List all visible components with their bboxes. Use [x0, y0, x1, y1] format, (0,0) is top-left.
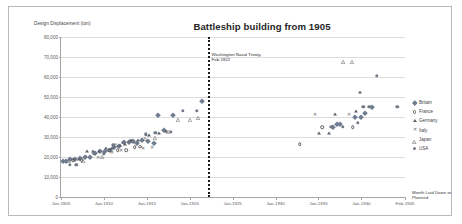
y-tick-mark	[59, 117, 61, 118]
x-tick-mark	[318, 197, 319, 200]
data-point-britain	[88, 154, 93, 159]
data-point-germany	[333, 112, 337, 115]
data-point-germany	[157, 131, 161, 134]
data-point-japan	[114, 133, 118, 151]
x-tick-mark	[190, 197, 191, 200]
x-tick-mark	[104, 197, 105, 200]
data-point-france	[320, 125, 324, 129]
y-tick-label: 30,000	[44, 135, 58, 140]
open-circle-icon	[411, 108, 418, 115]
x-tick-label: Jan-1905	[52, 201, 70, 206]
gridline	[61, 157, 405, 158]
y-tick-mark	[59, 57, 61, 58]
legend-item-italy[interactable]: ✕Italy	[411, 126, 457, 135]
y-tick-label: 10,000	[44, 175, 58, 180]
legend-item-france[interactable]: France	[411, 107, 457, 116]
data-point-germany	[358, 90, 362, 93]
y-tick-mark	[59, 37, 61, 38]
data-point-usa	[181, 109, 184, 112]
gridline	[61, 97, 405, 98]
x-tick-mark	[361, 197, 362, 200]
y-tick-label: 80,000	[44, 35, 58, 40]
data-point-britain	[199, 98, 204, 103]
data-point-germany	[118, 144, 122, 147]
data-point-italy: ✕	[110, 151, 114, 155]
y-tick-mark	[59, 77, 61, 78]
data-point-germany	[104, 146, 108, 149]
data-point-britain	[362, 110, 367, 115]
data-point-germany	[136, 138, 140, 141]
data-point-france	[124, 148, 128, 152]
data-point-japan	[188, 108, 192, 126]
y-tick-label: 70,000	[44, 55, 58, 60]
data-point-italy: ✕	[313, 113, 317, 117]
legend-item-germany[interactable]: Germany	[411, 116, 457, 125]
data-point-germany	[72, 158, 76, 161]
open-triangle-icon	[411, 136, 418, 143]
data-point-italy: ✕	[141, 147, 145, 151]
data-point-japan	[341, 50, 345, 68]
x-tick-label: Jan-1925	[224, 201, 242, 206]
x-tick-mark	[233, 197, 234, 200]
treaty-label-line2: Feb 1922	[212, 57, 262, 62]
legend: BritainFranceGermany✕ItalyJapanUSA	[411, 98, 457, 153]
gridline	[61, 177, 405, 178]
x-tick-label: Jan-1930	[266, 201, 284, 206]
x-tick-mark	[147, 197, 148, 200]
y-tick-mark	[59, 177, 61, 178]
legend-item-britain[interactable]: Britain	[411, 98, 457, 107]
data-point-usa	[396, 105, 399, 108]
chart-screenshot: Design Displacement (ton) Battleship bui…	[0, 0, 462, 224]
legend-item-label: Japan	[419, 137, 431, 142]
y-tick-label: 40,000	[44, 115, 58, 120]
x-tick-label: Jan-1940	[352, 201, 370, 206]
legend-item-label: USA	[419, 146, 428, 151]
data-point-italy: ✕	[347, 113, 351, 117]
washington-treaty-line	[208, 37, 210, 197]
y-tick-label: 60,000	[44, 75, 58, 80]
legend-item-usa[interactable]: USA	[411, 144, 457, 153]
data-point-japan	[143, 127, 147, 145]
data-point-britain	[352, 114, 357, 119]
data-point-usa	[75, 163, 78, 166]
data-point-france	[133, 145, 137, 149]
data-point-germany	[327, 132, 331, 135]
data-point-germany	[354, 110, 358, 113]
filled-diamond-icon	[411, 99, 418, 106]
y-axis-title: Design Displacement (ton)	[34, 21, 104, 27]
gridline	[61, 137, 405, 138]
y-tick-label: 20,000	[44, 155, 58, 160]
data-point-italy: ✕	[150, 146, 154, 150]
gridline	[61, 77, 405, 78]
data-point-usa	[169, 130, 172, 133]
x-tick-label: Jan-1935	[309, 201, 327, 206]
x-tick-label: Jan-1915	[138, 201, 156, 206]
data-point-usa	[84, 155, 87, 158]
data-point-italy: ✕	[119, 149, 123, 153]
y-tick-mark	[59, 157, 61, 158]
data-point-usa	[356, 121, 359, 124]
chart-panel: Design Displacement (ton) Battleship bui…	[12, 10, 449, 213]
data-point-japan	[350, 50, 354, 68]
data-point-usa	[361, 105, 364, 108]
filled-triangle-icon	[411, 117, 418, 124]
legend-item-japan[interactable]: Japan	[411, 135, 457, 144]
data-point-usa	[102, 152, 105, 155]
legend-item-label: Britain	[419, 100, 432, 105]
legend-item-label: France	[419, 109, 433, 114]
legend-item-label: Germany	[419, 118, 438, 123]
data-point-japan	[176, 108, 180, 126]
filled-circle-icon	[411, 145, 418, 152]
data-point-france	[298, 142, 302, 146]
data-point-germany	[147, 134, 151, 137]
washington-treaty-label: Washington Naval Treaty, Feb 1922	[212, 52, 262, 63]
data-point-japan	[152, 126, 156, 144]
y-tick-label: 50,000	[44, 95, 58, 100]
legend-item-label: Italy	[419, 128, 427, 133]
chart-title: Battleship building from 1905	[132, 21, 392, 32]
data-point-france	[351, 125, 355, 129]
x-tick-mark	[276, 197, 277, 200]
y-tick-mark	[59, 97, 61, 98]
gridline	[61, 37, 405, 38]
y-tick-label: 0	[55, 195, 58, 200]
